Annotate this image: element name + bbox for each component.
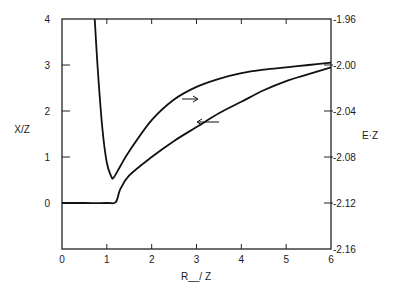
x-tick-label: 1 [104,254,110,265]
chart-container: 012345601234-1.96-2.00-2.04-2.08-2.12-2.… [0,0,394,291]
right-y-tick-label: -2.08 [333,152,356,163]
right-y-tick-label: -1.96 [333,14,356,25]
right-y-tick-label: -2.04 [333,106,356,117]
left-y-tick-label: 4 [44,14,50,25]
axis-arrows [182,96,219,125]
left-y-tick-label: 1 [44,152,50,163]
line-chart: 012345601234-1.96-2.00-2.04-2.08-2.12-2.… [0,0,394,291]
right-y-tick-label: -2.00 [333,60,356,71]
x-tick-label: 6 [328,254,334,265]
axis-ticks: 012345601234-1.96-2.00-2.04-2.08-2.12-2.… [44,14,356,266]
x-tick-label: 5 [283,254,289,265]
x-tick-label: 4 [239,254,245,265]
left-y-tick-label: 0 [44,198,50,209]
x-tick-label: 0 [59,254,65,265]
left-y-tick-label: 2 [44,106,50,117]
x-tick-label: 3 [194,254,200,265]
left-y-tick-label: 3 [44,60,50,71]
energy-curve [95,19,331,179]
right-y-tick-label: -2.16 [333,244,356,255]
data-curves [62,19,331,203]
left-y-axis-label: X/Z [14,124,30,135]
right-y-axis-label: E·Z [362,130,378,141]
x-axis-label: R__/ Z [181,271,211,282]
x-tick-label: 2 [149,254,155,265]
right-y-tick-label: -2.12 [333,198,356,209]
